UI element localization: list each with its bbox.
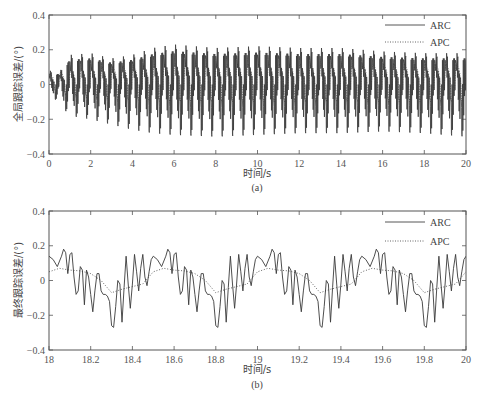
x-tick-label: 0 bbox=[47, 158, 52, 169]
legend-arc-label: ARC bbox=[430, 20, 451, 31]
x-tick-label: 4 bbox=[130, 158, 135, 169]
plot-frame bbox=[49, 15, 466, 154]
x-tick-label: 19.8 bbox=[416, 354, 434, 365]
y-tick-label: 0.4 bbox=[33, 10, 46, 21]
x-tick-label: 12 bbox=[294, 158, 304, 169]
x-axis-label: 时间/s bbox=[243, 167, 272, 179]
chart-panel-a: −0.4−0.200.20.4 02468101214161820 ARC AP… bbox=[12, 10, 471, 195]
legend: ARC APC bbox=[385, 20, 451, 48]
y-axis-label: 全局跟踪误差/(°) bbox=[12, 46, 24, 122]
panel-caption: (a) bbox=[251, 182, 262, 194]
x-tick-label: 18 bbox=[44, 354, 54, 365]
x-tick-label: 8 bbox=[213, 158, 218, 169]
x-tick-label: 19.6 bbox=[374, 354, 392, 365]
axis-ticks bbox=[49, 15, 466, 154]
y-tick-label: −0.2 bbox=[27, 310, 45, 321]
y-tick-label: 0 bbox=[40, 275, 45, 286]
y-tick-label: −0.4 bbox=[27, 149, 45, 160]
x-tick-label: 18.8 bbox=[207, 354, 225, 365]
x-tick-label: 18 bbox=[419, 158, 429, 169]
x-tick-label: 18.4 bbox=[124, 354, 142, 365]
y-tick-label: 0.2 bbox=[33, 240, 46, 251]
x-axis-label: 时间/s bbox=[243, 363, 272, 375]
x-tick-label: 19.2 bbox=[290, 354, 308, 365]
plot-frame bbox=[49, 211, 466, 350]
legend-apc-label: APC bbox=[430, 236, 450, 247]
chart-panel-b: −0.4−0.200.20.4 1818.218.418.618.81919.2… bbox=[12, 206, 471, 392]
y-tick-labels: −0.4−0.200.20.4 bbox=[27, 206, 45, 356]
x-tick-label: 20 bbox=[461, 354, 471, 365]
series-arc-line bbox=[49, 249, 466, 327]
y-tick-label: 0.4 bbox=[33, 206, 46, 217]
y-tick-label: 0 bbox=[40, 79, 45, 90]
series-apc-line bbox=[49, 268, 466, 292]
x-tick-label: 18.2 bbox=[82, 354, 100, 365]
y-tick-label: −0.2 bbox=[27, 114, 45, 125]
x-tick-label: 2 bbox=[88, 158, 93, 169]
legend: ARC APC bbox=[385, 217, 451, 247]
x-tick-label: 20 bbox=[461, 158, 471, 169]
y-axis-label: 最终跟踪误差/(°) bbox=[12, 242, 24, 318]
series-arc-line bbox=[49, 45, 466, 137]
y-tick-labels: −0.4−0.200.20.4 bbox=[27, 10, 45, 160]
axis-ticks bbox=[49, 211, 466, 350]
x-tick-label: 19.4 bbox=[332, 354, 350, 365]
legend-arc-label: ARC bbox=[430, 217, 451, 228]
x-tick-label: 16 bbox=[378, 158, 388, 169]
panel-caption: (b) bbox=[251, 379, 263, 391]
x-tick-label: 6 bbox=[172, 158, 177, 169]
legend-apc-label: APC bbox=[430, 37, 450, 48]
y-tick-label: −0.4 bbox=[27, 345, 45, 356]
x-tick-label: 18.6 bbox=[165, 354, 183, 365]
x-tick-label: 14 bbox=[336, 158, 346, 169]
y-tick-label: 0.2 bbox=[33, 44, 46, 55]
figure: −0.4−0.200.20.4 02468101214161820 ARC AP… bbox=[0, 0, 480, 401]
